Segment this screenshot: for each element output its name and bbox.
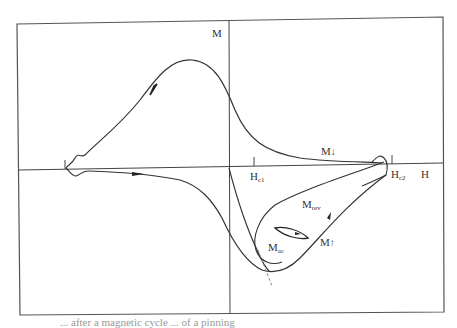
m-up-label: M↑ <box>320 236 335 248</box>
m-rev-label: Mrev <box>302 198 321 212</box>
h-axis-label: H <box>421 168 429 180</box>
m-axis-label: M <box>212 27 222 39</box>
plot-frame <box>17 17 444 315</box>
hc2-loop <box>362 156 387 186</box>
hc2-label: Hc2 <box>391 168 406 182</box>
caption-fragment: ... after a magnetic cycle ... of a pinn… <box>60 316 235 328</box>
m-down-label: M↓ <box>321 145 336 157</box>
arrow-lower <box>132 172 144 176</box>
hc1-label: Hc1 <box>250 170 265 184</box>
m-ac-loop <box>275 227 308 238</box>
dashed-tangent <box>258 250 272 286</box>
m-ac-label: Mac <box>268 241 284 255</box>
lower-branch-curve <box>88 171 386 272</box>
arrow-m-up <box>327 212 331 220</box>
